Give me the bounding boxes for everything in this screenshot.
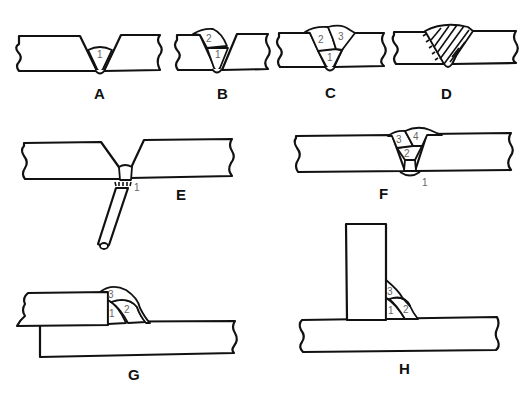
right-plate	[222, 34, 270, 70]
weld-pass-diagram: 1 A 2 1 B 2 3 1 C	[0, 0, 532, 393]
right-plate	[415, 133, 513, 171]
pass-number: 3	[387, 286, 393, 297]
figure-c: 2 3 1 C	[277, 26, 386, 101]
pass-number: 3	[108, 289, 114, 300]
figure-label-g: G	[128, 366, 140, 383]
figure-h: 3 2 1 H	[300, 224, 499, 377]
pass-number: 2	[403, 304, 409, 315]
figure-label-h: H	[399, 360, 410, 377]
pass-number: 1	[134, 182, 140, 193]
pass-number: 1	[388, 305, 394, 316]
root-reinforcement	[95, 70, 105, 74]
figure-f: 3 4 2 1 F	[295, 128, 513, 202]
root-reinforcement	[212, 69, 222, 73]
root-reinforcement	[400, 172, 420, 176]
electrode-tip	[100, 243, 108, 249]
vertical-plate	[346, 224, 386, 320]
pass-number: 3	[338, 31, 344, 42]
left-plate	[16, 36, 97, 71]
figure-label-c: C	[325, 84, 336, 101]
pass-number: 1	[215, 49, 221, 60]
figure-label-d: D	[441, 85, 452, 102]
pass-number: 1	[97, 49, 103, 60]
root-reinforcement	[325, 67, 335, 71]
figure-label-b: B	[217, 85, 228, 102]
figure-e: 1 E	[22, 139, 234, 249]
right-plate	[130, 139, 234, 178]
base-plate	[300, 317, 499, 352]
figure-a: 1 A	[16, 35, 162, 102]
arc-spark-marks	[115, 182, 131, 186]
weld-pass-1	[119, 165, 132, 180]
pass-number: 1	[109, 308, 115, 319]
figure-label-f: F	[379, 185, 388, 202]
top-plate	[17, 292, 108, 326]
figure-label-e: E	[176, 186, 186, 203]
pass-number: 2	[124, 304, 130, 315]
left-plate	[295, 135, 405, 172]
pass-number: 1	[422, 177, 428, 188]
figure-b: 2 1 B	[175, 29, 270, 102]
pass-number: 2	[318, 34, 324, 45]
pass-number: 4	[413, 131, 419, 142]
left-plate	[22, 142, 121, 179]
figure-d: D	[393, 25, 518, 102]
pass-number: 2	[206, 33, 212, 44]
electrode-rod	[98, 188, 128, 248]
pass-number: 3	[396, 134, 402, 145]
weld-pass-1	[404, 160, 416, 171]
figure-label-a: A	[94, 85, 105, 102]
pass-number: 1	[327, 52, 333, 63]
pass-number: 2	[404, 148, 410, 159]
right-plate	[104, 35, 162, 71]
figure-g: 3 2 1 G	[17, 287, 237, 383]
